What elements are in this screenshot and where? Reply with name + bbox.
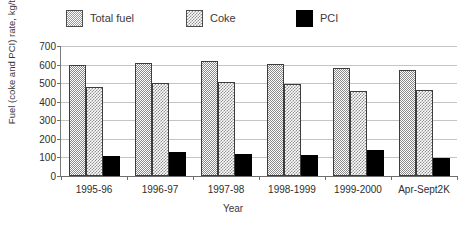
bar: [301, 155, 318, 176]
bar-group: [333, 46, 384, 176]
bar-group: [267, 46, 318, 176]
legend-item-pci: PCI: [296, 8, 338, 28]
y-tick-label-600: 600: [39, 59, 56, 70]
y-tick-label-100: 100: [39, 152, 56, 163]
x-tick-label: 1999-2000: [334, 184, 382, 195]
bar: [152, 83, 169, 176]
gridline-600: [61, 65, 457, 66]
y-tick-mark-600: [57, 65, 61, 66]
x-tick-label: 1995-96: [76, 184, 113, 195]
legend-item-total-fuel: Total fuel: [66, 8, 134, 28]
legend-swatch-total-fuel-icon: [66, 10, 83, 27]
x-tick-mark: [127, 176, 128, 180]
x-tick-mark: [61, 176, 62, 180]
x-tick-mark: [391, 176, 392, 180]
legend-swatch-coke-icon: [186, 10, 203, 27]
bar: [433, 158, 450, 176]
bar: [169, 152, 186, 176]
legend-swatch-pci-icon: [296, 10, 313, 27]
bar-chart: Total fuel Coke PCI Fuel (coke and PCI) …: [0, 0, 466, 228]
gridline-700: [61, 46, 457, 47]
bar: [86, 87, 103, 176]
bar: [399, 70, 416, 176]
legend-label-total-fuel: Total fuel: [90, 13, 134, 24]
plot-area: 01002003004005006007001995-961996-971997…: [60, 46, 457, 176]
bar: [416, 90, 433, 176]
legend-item-coke: Coke: [186, 8, 236, 28]
gridline-300: [61, 120, 457, 121]
bar-group: [201, 46, 252, 176]
y-tick-mark-200: [57, 139, 61, 140]
bar: [135, 63, 152, 176]
y-tick-mark-400: [57, 102, 61, 103]
bar: [218, 82, 235, 176]
x-tick-mark: [325, 176, 326, 180]
bar: [69, 65, 86, 176]
bar-group: [135, 46, 186, 176]
gridline-500: [61, 83, 457, 84]
y-tick-label-300: 300: [39, 115, 56, 126]
gridline-100: [61, 157, 457, 158]
bar: [201, 61, 218, 176]
bar-group: [69, 46, 120, 176]
gridline-200: [61, 139, 457, 140]
bar: [103, 156, 120, 176]
bar: [333, 68, 350, 176]
y-tick-label-200: 200: [39, 133, 56, 144]
y-tick-label-700: 700: [39, 41, 56, 52]
y-tick-label-400: 400: [39, 96, 56, 107]
chart-legend: Total fuel Coke PCI: [0, 8, 466, 34]
bar-group: [399, 46, 450, 176]
bar: [284, 84, 301, 176]
legend-label-coke: Coke: [210, 13, 236, 24]
y-tick-mark-300: [57, 120, 61, 121]
x-tick-label: 1997-98: [208, 184, 245, 195]
y-tick-label-0: 0: [50, 171, 56, 182]
bar: [367, 150, 384, 176]
y-tick-mark-700: [57, 46, 61, 47]
x-tick-label: 1998-1999: [268, 184, 316, 195]
x-tick-mark: [259, 176, 260, 180]
x-tick-mark: [193, 176, 194, 180]
x-tick-label: Apr-Sept2K: [398, 184, 450, 195]
bar: [235, 154, 252, 176]
y-tick-mark-100: [57, 157, 61, 158]
x-axis-title: Year: [0, 203, 466, 214]
y-tick-mark-500: [57, 83, 61, 84]
x-tick-mark: [457, 176, 458, 180]
gridline-400: [61, 102, 457, 103]
legend-label-pci: PCI: [320, 13, 338, 24]
y-axis-title: Fuel (coke and PCI) rate, kg/thm: [6, 0, 17, 131]
bar: [350, 91, 367, 176]
bar: [267, 64, 284, 176]
y-tick-label-500: 500: [39, 78, 56, 89]
x-tick-label: 1996-97: [142, 184, 179, 195]
